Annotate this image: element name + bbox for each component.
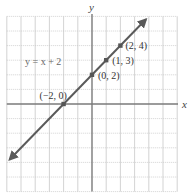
data-point-label: (−2, 0) [40, 90, 67, 102]
chart: (−2, 0)(0, 2)(1, 3)(2, 4) x y y = x + 2 [0, 0, 192, 196]
data-point-marker [104, 58, 108, 62]
y-axis-label: y [88, 1, 94, 13]
data-point-label: (1, 3) [112, 55, 134, 67]
data-points: (−2, 0)(0, 2)(1, 3)(2, 4) [40, 40, 147, 107]
data-point-label: (2, 4) [125, 40, 147, 52]
x-axis-label: x [181, 98, 187, 110]
equation-label: y = x + 2 [25, 56, 61, 67]
data-point-label: (0, 2) [98, 70, 120, 82]
data-point-marker [90, 73, 94, 77]
axes [7, 14, 178, 192]
data-point-marker [118, 43, 122, 47]
data-point-marker [61, 102, 65, 106]
